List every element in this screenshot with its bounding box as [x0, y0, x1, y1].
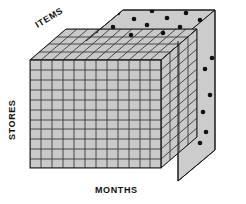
inner-front-face: [30, 60, 161, 168]
axis-label-months: MONTHS: [95, 186, 138, 195]
cube-illustration: [0, 0, 246, 204]
axis-label-stores: STORES: [8, 100, 17, 140]
data-cube-figure: ITEMS STORES MONTHS: [0, 0, 246, 204]
